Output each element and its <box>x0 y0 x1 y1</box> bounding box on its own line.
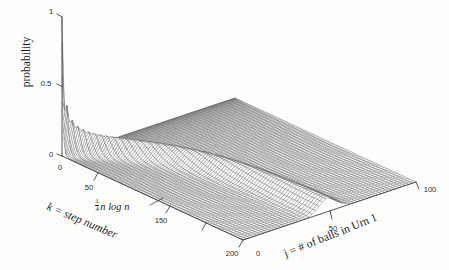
z-tick-0: 0 <box>49 150 53 159</box>
y-tick-0: 0 <box>256 249 260 258</box>
y-tick-100: 100 <box>424 185 437 194</box>
z-tick-0point5: 0.5 <box>41 79 52 88</box>
one-quarter-fraction: 1 4 <box>95 198 99 212</box>
mixing-time-annotation: 1 4 n log n <box>95 198 129 212</box>
x-tick-0: 0 <box>58 163 62 172</box>
x-tick-200: 200 <box>226 249 239 258</box>
z-axis-label: probability <box>20 12 32 112</box>
x-tick-50: 50 <box>85 183 93 192</box>
mixing-time-text: n log n <box>100 201 129 212</box>
z-tick-1: 1 <box>49 7 53 16</box>
x-tick-150: 150 <box>155 216 168 225</box>
fraction-denominator: 4 <box>95 206 99 213</box>
urn-probability-surface-plot: 1 0.5 0 0 50 150 200 0 50 100 <box>0 0 449 270</box>
